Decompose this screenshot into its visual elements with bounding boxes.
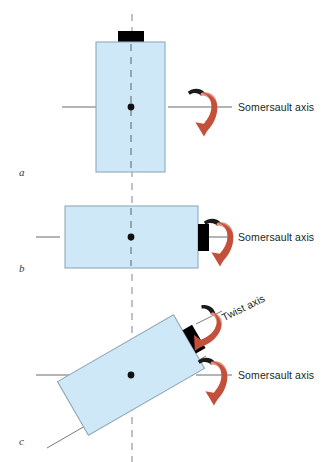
somersault-axis-label-b: Somersault axis [238, 231, 314, 243]
somersault-axis-label-c: Somersault axis [238, 369, 314, 381]
head-block-a [118, 31, 144, 42]
panel-b-group [65, 206, 233, 268]
somersault-axis-label-a: Somersault axis [238, 101, 314, 113]
figure-canvas: a b c Somersault axis Somersault axis Tw… [0, 0, 331, 462]
panel-label-b: b [19, 262, 25, 274]
panel-label-c: c [19, 435, 24, 447]
somersault-rotation-arrow-a [188, 89, 218, 137]
head-block-b [198, 224, 209, 251]
panel-label-a: a [19, 166, 25, 178]
panel-a-group [96, 31, 217, 172]
panel-c-group [57, 303, 228, 436]
center-of-mass-c [128, 372, 135, 379]
center-of-mass-b [128, 234, 135, 241]
center-of-mass-a [128, 104, 135, 111]
